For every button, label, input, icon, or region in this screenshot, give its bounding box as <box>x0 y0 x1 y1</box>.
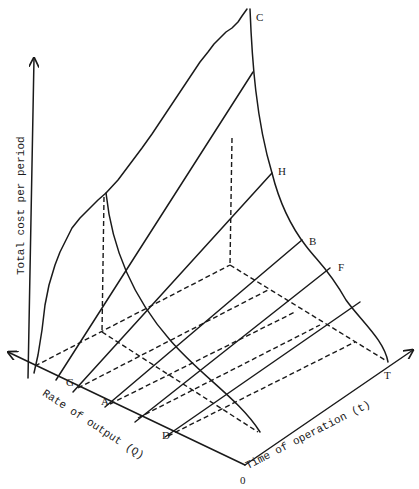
dashed-vertical-left <box>102 197 104 332</box>
cost-surface-diagram: C H B F T G A D 0 Total cost per period … <box>0 0 419 489</box>
base-dashed-left <box>102 332 258 432</box>
base-dashed-diagonal <box>230 265 385 360</box>
front-edge-curve <box>250 9 388 362</box>
cost-axis <box>28 58 34 378</box>
label-origin: 0 <box>240 475 246 486</box>
label-d: D <box>162 430 170 441</box>
back-curve <box>106 193 260 432</box>
surface-line <box>73 173 272 392</box>
label-f: F <box>338 262 344 273</box>
base-dashed <box>138 325 320 418</box>
dashed-vertical-right <box>230 138 232 265</box>
label-a: A <box>101 396 109 407</box>
label-b: B <box>309 236 316 247</box>
base-dashed <box>110 312 295 404</box>
cost-axis-label: Total cost per period <box>16 136 27 275</box>
label-g: G <box>66 377 74 388</box>
label-c: C <box>256 12 263 23</box>
label-t: T <box>384 370 391 381</box>
label-h: H <box>278 166 286 177</box>
